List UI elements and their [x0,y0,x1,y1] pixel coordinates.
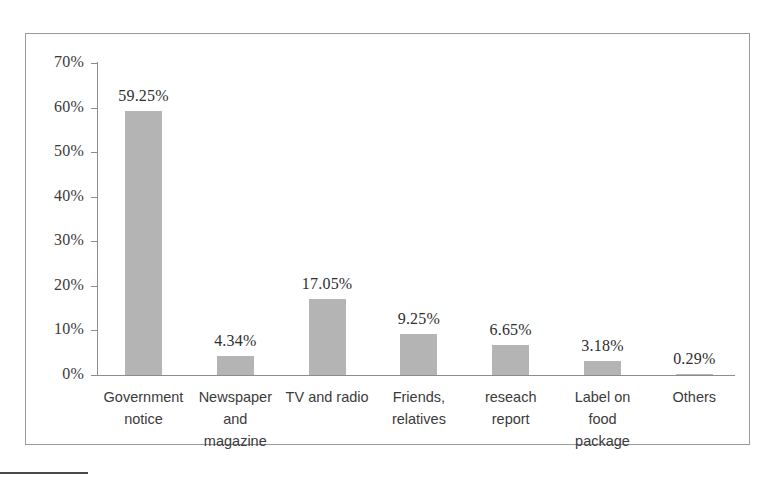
x-axis-line [97,375,735,376]
x-axis-category-label-line: report [459,408,563,430]
bar-value-label: 4.34% [180,332,290,350]
y-axis-tick [91,241,97,242]
y-axis-tick-label: 60% [36,98,84,118]
x-axis-category-label-line: package [551,430,655,452]
y-axis-tick [91,197,97,198]
x-axis-category-label-line: reseach [459,386,563,408]
x-axis-category-label: TV and radio [275,386,379,408]
y-axis-tick-label: 10% [36,320,84,340]
y-axis-tick-label-text: 60% [36,98,84,116]
y-axis-line [97,62,98,376]
y-axis-tick-label: 30% [36,231,84,251]
x-axis-category-label-line: Newspaper [183,386,287,408]
y-axis-tick-label: 0% [36,365,84,385]
y-axis-tick [91,63,97,64]
y-axis-tick-label-text: 30% [36,231,84,249]
x-axis-category-label-line: Government [92,386,196,408]
x-axis-category-label-line: and [183,408,287,430]
y-axis-tick-label: 70% [36,53,84,73]
y-axis-tick-label: 40% [36,187,84,207]
bar[interactable] [217,356,254,375]
y-axis-tick [91,286,97,287]
bar[interactable] [676,374,713,375]
y-axis-tick-label: 50% [36,142,84,162]
y-axis-tick-label-text: 40% [36,187,84,205]
y-axis-tick-label-text: 20% [36,276,84,294]
bar[interactable] [400,334,437,375]
bar-value-label: 17.05% [272,275,382,293]
x-axis-category-label-line: Label on [551,386,655,408]
y-axis-tick-label-text: 0% [36,365,84,383]
x-axis-category-label-line: TV and radio [275,386,379,408]
y-axis-tick [91,108,97,109]
x-axis-category-label-line: Friends, [367,386,471,408]
x-axis-category-label: Friends,relatives [367,386,471,430]
x-axis-category-label: Governmentnotice [92,386,196,430]
y-axis-tick-label: 20% [36,276,84,296]
bar[interactable] [584,361,621,375]
bar[interactable] [309,299,346,375]
bar[interactable] [492,345,529,375]
x-axis-category-label-line: food [551,408,655,430]
x-axis-category-label-line: magazine [183,430,287,452]
x-axis-category-label-line: relatives [367,408,471,430]
x-axis-category-label: Label onfoodpackage [551,386,655,452]
footnote-separator-rule [0,472,88,474]
y-axis-tick [91,152,97,153]
y-axis-tick-label-text: 50% [36,142,84,160]
y-axis-tick-label-text: 70% [36,53,84,71]
x-axis-category-label: reseachreport [459,386,563,430]
x-axis-category-label-line: notice [92,408,196,430]
bar-value-label: 59.25% [89,87,199,105]
y-axis-tick [91,330,97,331]
x-axis-category-label-line: Others [642,386,746,408]
bar-chart-plot-area: 0%10%20%30%40%50%60%70% 59.25%4.34%17.05… [0,0,777,485]
x-axis-category-label: Others [642,386,746,408]
y-axis-tick [91,375,97,376]
figure-container: 0%10%20%30%40%50%60%70% 59.25%4.34%17.05… [0,0,777,485]
x-axis-category-label: Newspaperandmagazine [183,386,287,452]
y-axis-tick-label-text: 10% [36,320,84,338]
bar[interactable] [125,111,162,375]
bar-value-label: 0.29% [639,350,749,368]
